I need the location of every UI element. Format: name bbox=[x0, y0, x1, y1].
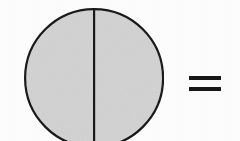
whole-circle-group bbox=[24, 8, 164, 141]
equals-bar-top bbox=[189, 76, 221, 80]
whole-circle-svg bbox=[24, 8, 164, 141]
equals-bar-bottom bbox=[189, 87, 221, 91]
figure-canvas bbox=[0, 0, 240, 141]
equals-sign bbox=[189, 74, 221, 94]
